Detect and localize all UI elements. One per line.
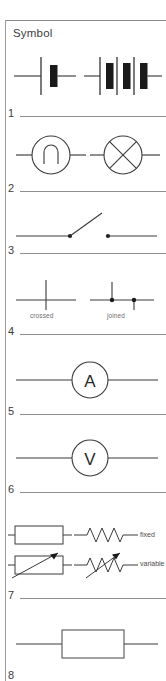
label-joined: joined xyxy=(107,312,125,319)
row-number-3: 3 xyxy=(8,245,14,256)
symbol-wires-crossed xyxy=(14,276,84,312)
row-number-5: 5 xyxy=(8,406,14,417)
table-top-border xyxy=(5,20,166,21)
symbol-switch-open xyxy=(14,205,159,247)
row-divider-4 xyxy=(20,334,166,335)
symbol-resistor-variable-zigzag xyxy=(74,550,138,580)
symbol-voltmeter: V xyxy=(14,434,160,480)
row-number-8: 8 xyxy=(8,670,14,681)
symbol-wires-joined xyxy=(88,276,162,312)
column-header-symbol: Symbol xyxy=(13,27,53,39)
row-divider-2 xyxy=(20,191,166,192)
symbol-column-page: Symbol 1 2 xyxy=(0,0,166,681)
row-divider-1 xyxy=(20,116,166,117)
symbol-ammeter: A xyxy=(14,356,160,402)
row-divider-6 xyxy=(20,492,166,493)
label-resistor-fixed: fixed xyxy=(140,531,155,538)
symbol-lamp-indicator-cross xyxy=(90,131,162,179)
row-divider-7 xyxy=(20,598,166,599)
symbol-lamp-filament xyxy=(16,131,86,179)
symbol-battery xyxy=(84,52,162,100)
row-number-6: 6 xyxy=(8,484,14,495)
symbol-resistor-variable-box xyxy=(8,550,74,580)
row-number-2: 2 xyxy=(8,183,14,194)
symbol-resistor-fixed-box xyxy=(8,522,74,548)
label-resistor-variable: variable xyxy=(140,560,165,567)
row-number-4: 4 xyxy=(8,326,14,337)
row-divider-3 xyxy=(20,253,166,254)
symbol-component-box xyxy=(14,620,160,664)
row-number-1: 1 xyxy=(8,108,14,119)
symbol-cell xyxy=(14,52,80,100)
table-left-border xyxy=(5,20,6,681)
voltmeter-letter: V xyxy=(84,450,96,469)
label-crossed: crossed xyxy=(30,312,53,319)
symbol-resistor-fixed-zigzag xyxy=(74,522,138,548)
ammeter-letter: A xyxy=(84,372,96,391)
row-divider-5 xyxy=(20,414,166,415)
row-number-7: 7 xyxy=(8,590,14,601)
